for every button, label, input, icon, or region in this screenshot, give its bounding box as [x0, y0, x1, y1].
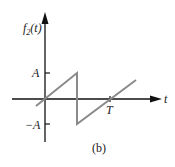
- x-axis-label: t: [164, 92, 168, 106]
- figure-caption: (b): [92, 141, 106, 155]
- tick-label-A: A: [31, 66, 40, 80]
- y-axis-label: f2(t): [23, 21, 42, 37]
- tick-label-T: T: [106, 103, 114, 117]
- y-axis-arrow-icon: [42, 12, 49, 24]
- sawtooth-diagram: f2(t) t A −A T (b): [0, 0, 175, 167]
- x-axis-arrow-icon: [150, 96, 162, 103]
- tick-label-neg-A: −A: [25, 118, 41, 132]
